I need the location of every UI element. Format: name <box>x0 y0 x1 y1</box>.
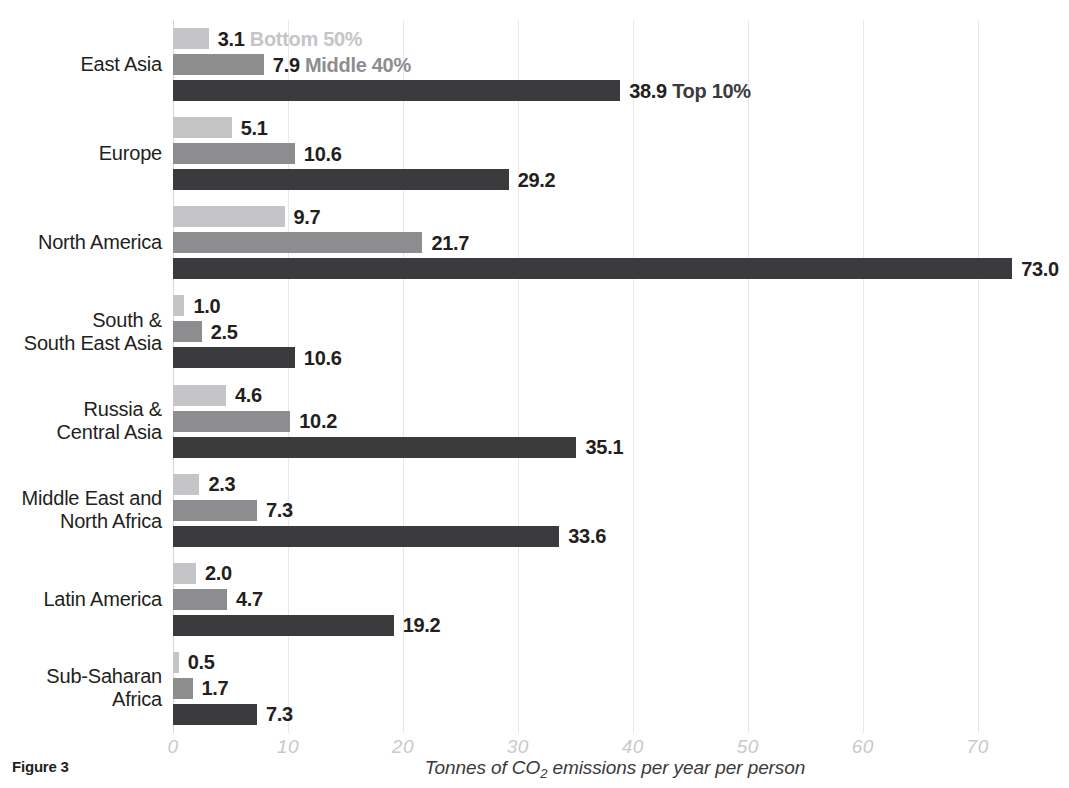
bar-value-number: 7.3 <box>266 703 293 725</box>
bar-value-number: 73.0 <box>1021 257 1059 279</box>
category-label: South & South East Asia <box>0 309 162 355</box>
bar[interactable] <box>173 437 576 458</box>
bar-value-number: 10.6 <box>304 346 342 368</box>
bar-value-label: 10.6 <box>304 346 342 369</box>
bar-group: Latin America2.04.719.2 <box>173 555 1057 644</box>
bar[interactable] <box>173 652 179 673</box>
bar-value-label: 7.9 Middle 40% <box>273 53 411 76</box>
bar-value-number: 3.1 <box>218 27 245 49</box>
bar-value-label: 38.9 Top 10% <box>629 79 751 102</box>
bar-value-number: 10.2 <box>299 410 337 432</box>
bar[interactable] <box>173 80 620 101</box>
bar[interactable] <box>173 385 226 406</box>
x-tick-label-50: 50 <box>737 736 759 758</box>
bar-row: 33.6 <box>173 526 1057 547</box>
bar-value-number: 19.2 <box>403 614 441 636</box>
bar[interactable] <box>173 295 184 316</box>
bar-row: 10.6 <box>173 143 1057 164</box>
bar-value-label: 1.0 <box>193 294 220 317</box>
bar-row: 35.1 <box>173 437 1057 458</box>
figure-container: East Asia3.1 Bottom 50%7.9 Middle 40%38.… <box>0 0 1069 788</box>
bar-value-label: 4.7 <box>236 588 263 611</box>
bar-group: Russia & Central Asia4.610.235.1 <box>173 377 1057 466</box>
bar[interactable] <box>173 589 227 610</box>
bar-group: Middle East and North Africa2.37.333.6 <box>173 466 1057 555</box>
bar-row: 7.3 <box>173 500 1057 521</box>
bar-row: 38.9 Top 10% <box>173 80 1057 101</box>
bar-value-number: 33.6 <box>568 525 606 547</box>
bar-value-label: 33.6 <box>568 525 606 548</box>
x-tick-label-20: 20 <box>392 736 414 758</box>
bar-group: East Asia3.1 Bottom 50%7.9 Middle 40%38.… <box>173 20 1057 109</box>
bar-row: 2.3 <box>173 474 1057 495</box>
legend-label-0: Bottom 50% <box>245 27 363 49</box>
bar[interactable] <box>173 411 290 432</box>
category-label: Latin America <box>0 588 162 611</box>
bar-row: 21.7 <box>173 232 1057 253</box>
bar-row: 0.5 <box>173 652 1057 673</box>
bar[interactable] <box>173 678 193 699</box>
x-axis-label-prefix: Tonnes of CO <box>425 757 540 778</box>
bar[interactable] <box>173 474 199 495</box>
bar[interactable] <box>173 54 264 75</box>
bar[interactable] <box>173 500 257 521</box>
bar-value-label: 2.3 <box>208 473 235 496</box>
bar-value-label: 4.6 <box>235 384 262 407</box>
bar[interactable] <box>173 28 209 49</box>
bar-value-label: 29.2 <box>518 168 556 191</box>
bar-row: 2.5 <box>173 321 1057 342</box>
bar-row: 1.7 <box>173 678 1057 699</box>
bar-value-label: 9.7 <box>294 205 321 228</box>
bar-row: 4.6 <box>173 385 1057 406</box>
bar-value-label: 10.2 <box>299 410 337 433</box>
x-axis-label-subscript: 2 <box>540 766 547 781</box>
bar-row: 73.0 <box>173 258 1057 279</box>
bar-value-number: 21.7 <box>431 231 469 253</box>
bar-value-label: 2.5 <box>211 320 238 343</box>
x-axis-label-suffix: emissions per year per person <box>547 757 805 778</box>
bar-value-label: 5.1 <box>241 116 268 139</box>
bar[interactable] <box>173 347 295 368</box>
bar-value-label: 10.6 <box>304 142 342 165</box>
bar-groups: East Asia3.1 Bottom 50%7.9 Middle 40%38.… <box>173 20 1057 733</box>
bar-value-number: 29.2 <box>518 168 556 190</box>
bar-value-number: 1.7 <box>202 677 229 699</box>
bar-value-label: 0.5 <box>188 651 215 674</box>
bar-value-number: 5.1 <box>241 116 268 138</box>
bar[interactable] <box>173 321 202 342</box>
bar-row: 10.6 <box>173 347 1057 368</box>
bar[interactable] <box>173 117 232 138</box>
category-label: North America <box>0 231 162 254</box>
x-tick-label-40: 40 <box>622 736 644 758</box>
bar-value-number: 10.6 <box>304 142 342 164</box>
bar-value-number: 7.3 <box>266 499 293 521</box>
category-label: Sub-Saharan Africa <box>0 665 162 711</box>
bar[interactable] <box>173 143 295 164</box>
bar[interactable] <box>173 563 196 584</box>
bar-group: Sub-Saharan Africa0.51.77.3 <box>173 644 1057 733</box>
bar-row: 10.2 <box>173 411 1057 432</box>
figure-caption: Figure 3 <box>12 758 69 775</box>
bar-value-number: 7.9 <box>273 53 300 75</box>
bar-row: 9.7 <box>173 206 1057 227</box>
bar-value-number: 35.1 <box>585 436 623 458</box>
legend-label-2: Top 10% <box>667 79 751 101</box>
bar[interactable] <box>173 704 257 725</box>
bar[interactable] <box>173 526 559 547</box>
bar[interactable] <box>173 615 394 636</box>
bar[interactable] <box>173 169 509 190</box>
bar-value-label: 35.1 <box>585 436 623 459</box>
bar[interactable] <box>173 258 1012 279</box>
bar-row: 4.7 <box>173 589 1057 610</box>
bar-value-label: 19.2 <box>403 614 441 637</box>
bar-value-label: 2.0 <box>205 562 232 585</box>
category-label: East Asia <box>0 53 162 76</box>
bar[interactable] <box>173 206 285 227</box>
bar[interactable] <box>173 232 422 253</box>
legend-label-1: Middle 40% <box>300 53 411 75</box>
bar-group: South & South East Asia1.02.510.6 <box>173 287 1057 376</box>
bar-row: 29.2 <box>173 169 1057 190</box>
category-label: Russia & Central Asia <box>0 398 162 444</box>
bar-value-number: 2.5 <box>211 320 238 342</box>
bar-row: 5.1 <box>173 117 1057 138</box>
